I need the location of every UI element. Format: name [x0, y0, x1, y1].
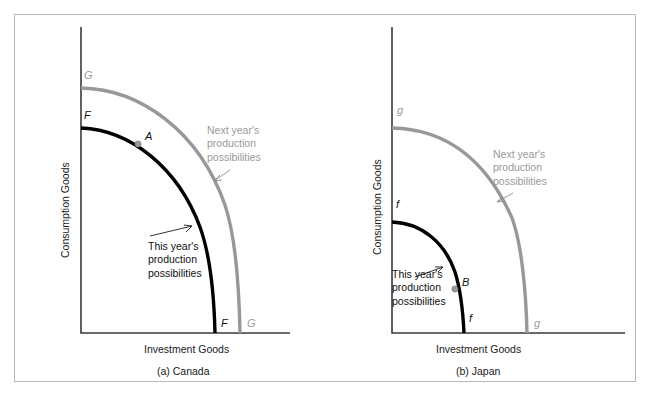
canada-x-intercept-label-next-year: G [247, 318, 256, 329]
japan-x-intercept-label-next-year: g [534, 318, 540, 329]
japan-point-b-label: B [462, 277, 469, 288]
canada-x-axis-title: Investment Goods [144, 344, 229, 355]
japan-y-intercept-label-next-year: g [397, 105, 403, 116]
japan-panel-caption: (b) Japan [456, 366, 500, 377]
japan-next-year-annotation: Next year's production possibilities [493, 148, 547, 188]
figure-root: G F F G A Next year's production possibi… [0, 0, 651, 400]
panel-japan: g f f g B Next year's production possibi… [326, 0, 651, 400]
canada-y-axis-title: Consumption Goods [60, 162, 71, 258]
canada-plot-svg [0, 0, 325, 400]
canada-this-year-arrowhead [184, 225, 192, 232]
canada-x-intercept-label-this-year: F [221, 318, 228, 329]
canada-axes [81, 27, 290, 333]
japan-x-intercept-label-this-year: f [469, 313, 472, 324]
canada-next-year-annotation: Next year's production possibilities [207, 124, 261, 164]
japan-y-intercept-label-this-year: f [396, 199, 399, 210]
japan-point-b-marker [452, 286, 458, 292]
japan-y-axis-title: Consumption Goods [372, 159, 383, 255]
panel-canada: G F F G A Next year's production possibi… [0, 0, 325, 400]
canada-next-year-leader [214, 170, 230, 181]
canada-this-year-curve [81, 128, 215, 333]
canada-panel-caption: (a) Canada [157, 366, 210, 377]
canada-point-a-marker [135, 141, 141, 147]
canada-y-intercept-label-next-year: G [84, 70, 93, 81]
canada-this-year-annotation: This year's production possibilities [148, 240, 202, 280]
canada-this-year-leader [150, 226, 192, 236]
canada-point-a-label: A [145, 131, 152, 142]
canada-y-intercept-label-this-year: F [84, 110, 91, 121]
japan-this-year-annotation: This year's production possibilities [392, 268, 446, 308]
japan-x-axis-title: Investment Goods [436, 344, 521, 355]
